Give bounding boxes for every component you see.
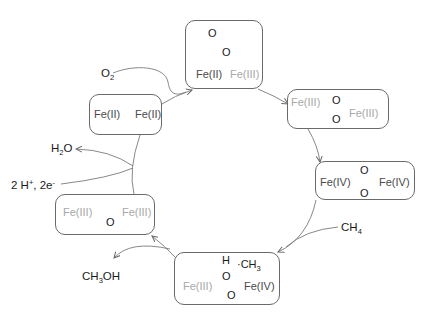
fe-right-label: Fe(III) bbox=[349, 107, 378, 119]
fe-right-label: Fe(III) bbox=[230, 68, 259, 80]
fe-right-label: Fe(IV) bbox=[379, 176, 410, 188]
oxygen-top: O bbox=[332, 94, 341, 106]
reagent-ch4: CH4 bbox=[341, 221, 362, 234]
fe-left-label: Fe(III) bbox=[183, 280, 212, 292]
fe-right-label: Fe(III) bbox=[122, 206, 151, 218]
oxygen-bridge: O bbox=[106, 216, 115, 228]
fe-left-label: Fe(III) bbox=[63, 206, 92, 218]
oxygen-bottom: O bbox=[227, 289, 236, 301]
oxygen-bottom: O bbox=[360, 187, 369, 199]
methyl-radical: ·CH3 bbox=[237, 258, 261, 270]
reagent-protons-electrons: 2 H+, 2e- bbox=[11, 179, 55, 192]
hydrogen-label: H bbox=[222, 254, 230, 266]
reagent-o2: O2 bbox=[101, 67, 114, 80]
oxygen-bottom: O bbox=[332, 113, 341, 125]
fe-left-label: Fe(II) bbox=[94, 108, 120, 120]
state-diferrous: Fe(II) Fe(II) bbox=[89, 94, 162, 135]
oxygen-top: O bbox=[222, 270, 231, 282]
oxygen-top: O bbox=[208, 27, 217, 39]
state-hydroxo-radical: H ·CH3 O Fe(III) Fe(IV) O bbox=[174, 252, 280, 305]
state-superoxo: O O Fe(II) Fe(III) bbox=[185, 20, 263, 89]
state-peroxo: Fe(III) O O Fe(III) bbox=[287, 89, 389, 129]
fe-right-label: Fe(IV) bbox=[244, 280, 275, 292]
state-oxo-bridged: Fe(III) O Fe(III) bbox=[55, 194, 155, 235]
fe-left-label: Fe(IV) bbox=[320, 176, 351, 188]
state-compound-q: Fe(IV) O O Fe(IV) bbox=[315, 161, 415, 200]
fe-left-label: Fe(II) bbox=[196, 68, 222, 80]
product-h2o: H2O bbox=[51, 142, 72, 155]
fe-right-label: Fe(II) bbox=[135, 108, 161, 120]
oxygen-mid: O bbox=[222, 46, 231, 58]
oxygen-top: O bbox=[360, 164, 369, 176]
fe-left-label: Fe(III) bbox=[291, 96, 320, 108]
product-ch3oh: CH3OH bbox=[82, 270, 120, 283]
